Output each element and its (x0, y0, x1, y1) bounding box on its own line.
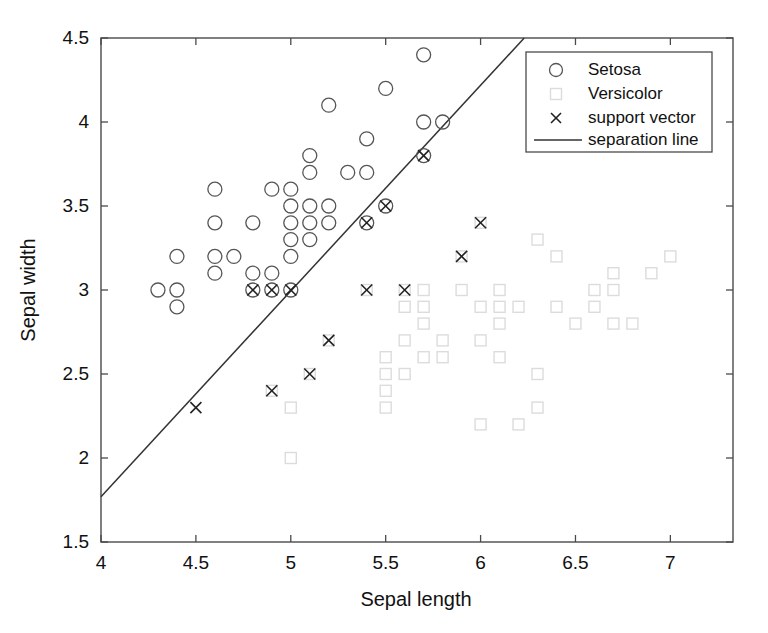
y-tick-label: 3.5 (0, 195, 89, 217)
y-tick-label: 4.5 (0, 27, 89, 49)
y-tick-label: 2 (0, 447, 89, 469)
series-support-vector-markers (190, 150, 486, 413)
x-tick-label: 6.5 (562, 552, 588, 574)
y-axis-title: Sepal width (17, 238, 40, 341)
y-tick-label: 3 (0, 279, 89, 301)
x-tick-label: 6 (475, 552, 486, 574)
legend-label-square: Versicolor (588, 84, 663, 104)
y-tick-label: 1.5 (0, 531, 89, 553)
x-tick-label: 5.5 (372, 552, 398, 574)
x-axis-title: Sepal length (360, 588, 471, 611)
legend-label-x: support vector (588, 108, 696, 128)
series-setosa-markers (151, 48, 450, 314)
x-tick-label: 4 (96, 552, 107, 574)
x-tick-label: 5 (285, 552, 296, 574)
legend-label-circle: Setosa (588, 60, 641, 80)
x-tick-label: 4.5 (183, 552, 209, 574)
x-tick-label: 7 (665, 552, 676, 574)
y-tick-label: 4 (0, 111, 89, 133)
scatter-plot-figure: 44.555.566.571.522.533.544.5 Sepal lengt… (0, 0, 768, 633)
legend-label-line: separation line (588, 130, 699, 150)
separation-line (101, 38, 524, 497)
y-tick-label: 2.5 (0, 363, 89, 385)
